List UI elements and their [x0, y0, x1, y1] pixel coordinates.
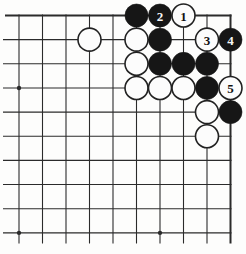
black-stone	[125, 4, 148, 27]
white-stone	[125, 28, 148, 51]
move-number: 3	[204, 33, 211, 48]
white-stone	[196, 101, 219, 124]
white-stone	[125, 52, 148, 75]
white-stone	[78, 28, 101, 51]
star-point	[17, 231, 21, 235]
star-point	[17, 86, 21, 90]
move-number: 2	[157, 9, 164, 24]
black-stone	[196, 76, 219, 99]
white-stone	[125, 76, 148, 99]
white-stone	[172, 76, 195, 99]
white-stone	[149, 76, 172, 99]
go-board: 21345	[0, 0, 246, 254]
black-stone	[149, 52, 172, 75]
black-stone	[196, 52, 219, 75]
move-number: 4	[227, 33, 234, 48]
black-stone	[149, 28, 172, 51]
move-number: 5	[227, 81, 234, 96]
black-stone	[219, 101, 242, 124]
white-stone	[196, 125, 219, 148]
go-diagram: 21345	[0, 0, 246, 254]
star-point	[158, 231, 162, 235]
move-number: 1	[180, 9, 187, 24]
black-stone	[172, 52, 195, 75]
